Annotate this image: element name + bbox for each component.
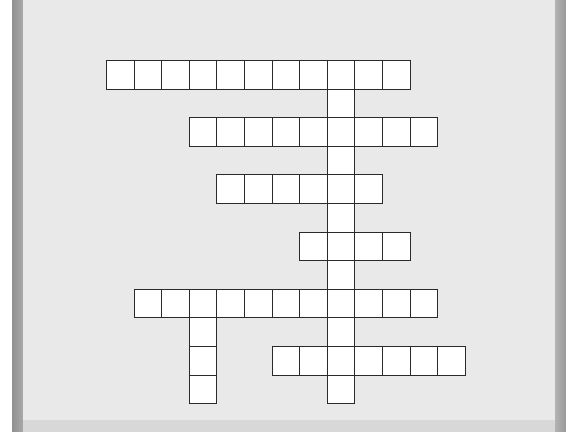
crossword-cell[interactable] bbox=[299, 346, 328, 376]
crossword-cell[interactable] bbox=[244, 174, 273, 204]
crossword-grid bbox=[0, 0, 577, 446]
crossword-cell[interactable] bbox=[299, 289, 328, 319]
crossword-cell[interactable] bbox=[216, 174, 245, 204]
crossword-cell[interactable] bbox=[272, 117, 301, 147]
crossword-cell[interactable] bbox=[161, 289, 190, 319]
crossword-cell[interactable] bbox=[299, 60, 328, 90]
crossword-cell[interactable] bbox=[189, 117, 218, 147]
crossword-cell[interactable] bbox=[354, 60, 383, 90]
crossword-cell[interactable] bbox=[327, 317, 356, 347]
crossword-cell[interactable] bbox=[134, 60, 163, 90]
crossword-cell[interactable] bbox=[161, 60, 190, 90]
crossword-cell[interactable] bbox=[410, 289, 439, 319]
crossword-cell[interactable] bbox=[216, 117, 245, 147]
crossword-cell[interactable] bbox=[327, 260, 356, 290]
crossword-cell[interactable] bbox=[272, 289, 301, 319]
crossword-cell[interactable] bbox=[327, 375, 356, 405]
crossword-cell[interactable] bbox=[272, 174, 301, 204]
crossword-cell[interactable] bbox=[382, 232, 411, 262]
crossword-cell[interactable] bbox=[327, 174, 356, 204]
crossword-cell[interactable] bbox=[354, 117, 383, 147]
crossword-cell[interactable] bbox=[272, 60, 301, 90]
crossword-cell[interactable] bbox=[106, 60, 135, 90]
crossword-cell[interactable] bbox=[299, 117, 328, 147]
crossword-cell[interactable] bbox=[272, 346, 301, 376]
crossword-cell[interactable] bbox=[244, 117, 273, 147]
crossword-cell[interactable] bbox=[244, 289, 273, 319]
crossword-cell[interactable] bbox=[327, 203, 356, 233]
crossword-cell[interactable] bbox=[354, 289, 383, 319]
crossword-cell[interactable] bbox=[299, 232, 328, 262]
crossword-cell[interactable] bbox=[189, 346, 218, 376]
crossword-cell[interactable] bbox=[327, 117, 356, 147]
crossword-cell[interactable] bbox=[299, 174, 328, 204]
crossword-cell[interactable] bbox=[382, 117, 411, 147]
crossword-cell[interactable] bbox=[189, 375, 218, 405]
crossword-cell[interactable] bbox=[327, 346, 356, 376]
crossword-cell[interactable] bbox=[327, 89, 356, 119]
crossword-cell[interactable] bbox=[327, 146, 356, 176]
crossword-cell[interactable] bbox=[327, 232, 356, 262]
crossword-cell[interactable] bbox=[410, 346, 439, 376]
crossword-cell[interactable] bbox=[382, 289, 411, 319]
crossword-cell[interactable] bbox=[354, 232, 383, 262]
crossword-cell[interactable] bbox=[134, 289, 163, 319]
crossword-cell[interactable] bbox=[437, 346, 466, 376]
crossword-cell[interactable] bbox=[327, 60, 356, 90]
crossword-cell[interactable] bbox=[189, 60, 218, 90]
crossword-cell[interactable] bbox=[382, 346, 411, 376]
crossword-cell[interactable] bbox=[354, 174, 383, 204]
crossword-cell[interactable] bbox=[354, 346, 383, 376]
crossword-cell[interactable] bbox=[327, 289, 356, 319]
crossword-cell[interactable] bbox=[189, 317, 218, 347]
crossword-cell[interactable] bbox=[216, 60, 245, 90]
crossword-cell[interactable] bbox=[216, 289, 245, 319]
crossword-cell[interactable] bbox=[244, 60, 273, 90]
crossword-cell[interactable] bbox=[382, 60, 411, 90]
crossword-cell[interactable] bbox=[410, 117, 439, 147]
crossword-cell[interactable] bbox=[189, 289, 218, 319]
